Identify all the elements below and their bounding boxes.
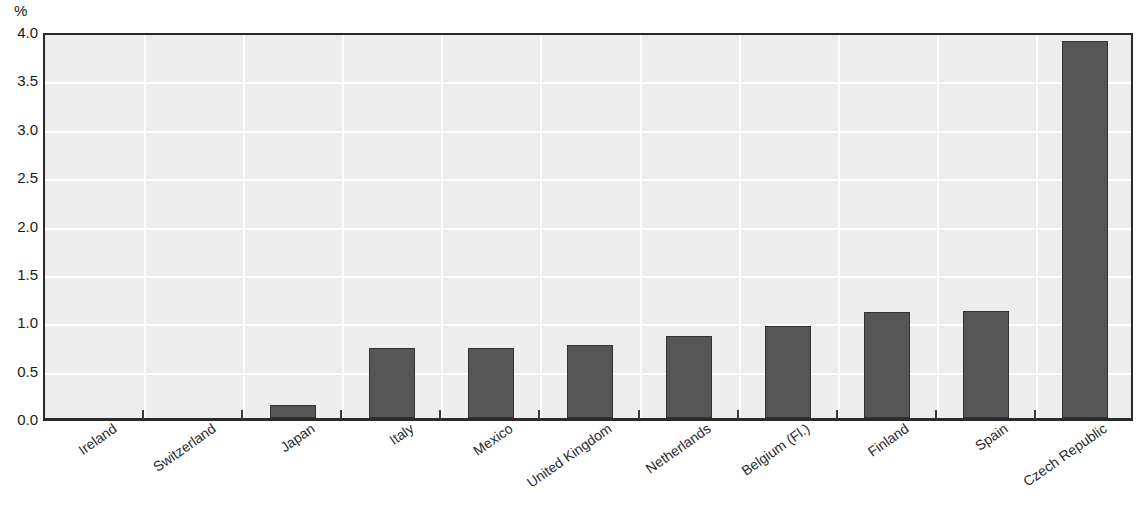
bar <box>864 312 910 418</box>
y-tick-label: 0.5 <box>0 364 38 379</box>
y-tick-label: 2.5 <box>0 170 38 185</box>
y-tick-label: 2.0 <box>0 219 38 234</box>
x-tick-mark <box>836 410 838 419</box>
x-tick-mark <box>935 410 937 419</box>
x-axis-category-label-text: Switzerland <box>151 421 218 474</box>
x-axis-category-label: Spain <box>973 421 1010 453</box>
plot-area <box>43 33 1133 420</box>
x-tick-mark <box>340 410 342 419</box>
bar <box>567 345 613 418</box>
x-axis-category-label: Switzerland <box>151 421 218 474</box>
x-tick-mark <box>439 410 441 419</box>
x-axis-category-label-text: Japan <box>278 421 317 454</box>
x-axis-category-label: Netherlands <box>643 421 713 476</box>
x-tick-mark <box>241 410 243 419</box>
x-axis-category-label-text: Spain <box>973 421 1010 453</box>
x-tick-mark <box>638 410 640 419</box>
x-axis-category-label-text: Ireland <box>76 421 119 457</box>
x-tick-mark <box>142 410 144 419</box>
y-tick-label: 3.5 <box>0 73 38 88</box>
y-tick-label: 1.0 <box>0 315 38 330</box>
x-axis-category-label-text: Belgium (Fl.) <box>739 421 812 478</box>
y-tick-label: 4.0 <box>0 25 38 40</box>
x-axis-category-label-text: Czech Republic <box>1021 421 1109 489</box>
x-axis-category-label: Czech Republic <box>1021 421 1109 489</box>
x-tick-mark <box>1034 410 1036 419</box>
x-axis-category-label: Belgium (Fl.) <box>739 421 812 478</box>
y-tick-label: 1.5 <box>0 267 38 282</box>
x-tick-mark <box>737 410 739 419</box>
x-axis-category-label-text: Italy <box>387 421 416 447</box>
x-axis-category-label-text: Netherlands <box>643 421 713 476</box>
y-axis: 0.00.51.01.52.02.53.03.54.0 <box>0 33 38 420</box>
x-axis-category-label: Finland <box>865 421 911 459</box>
y-axis-unit-label: % <box>14 2 28 19</box>
x-axis-category-label: Italy <box>387 421 416 447</box>
bar <box>666 336 712 418</box>
x-axis-labels: IrelandSwitzerlandJapanItalyMexicoUnited… <box>0 421 1148 516</box>
x-axis-category-label: Ireland <box>76 421 119 457</box>
x-axis-category-label: Japan <box>278 421 317 454</box>
bar <box>765 326 811 418</box>
x-tick-mark <box>538 410 540 419</box>
y-tick-label: 3.0 <box>0 122 38 137</box>
x-axis-category-label-text: Mexico <box>471 421 515 458</box>
bar <box>270 405 316 418</box>
bars-layer <box>45 35 1131 418</box>
bar <box>963 311 1009 418</box>
x-axis-category-label: United Kingdom <box>524 421 614 490</box>
bar <box>468 348 514 418</box>
x-axis-category-label-text: Finland <box>865 421 911 459</box>
bar <box>369 348 415 418</box>
bar-chart-figure: % 0.00.51.01.52.02.53.03.54.0 IrelandSwi… <box>0 0 1148 516</box>
x-axis-category-label: Mexico <box>471 421 515 458</box>
bar <box>1062 41 1108 418</box>
x-axis-category-label-text: United Kingdom <box>524 421 614 490</box>
